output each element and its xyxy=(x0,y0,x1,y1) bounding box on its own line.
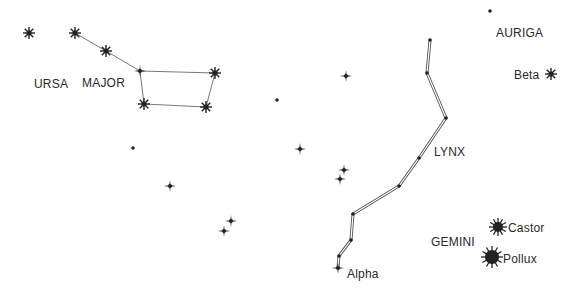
auriga-label: AURIGA xyxy=(496,27,543,39)
star-icon xyxy=(545,68,557,80)
dot-star-icon xyxy=(397,184,401,188)
dot-star-icon xyxy=(428,38,432,42)
alpha-label: Alpha xyxy=(347,268,379,280)
lynx-label: LYNX xyxy=(434,146,465,158)
star-icon xyxy=(340,70,352,82)
star-chart xyxy=(0,0,574,302)
bright-star-icon xyxy=(489,218,507,236)
dot-star-icon xyxy=(444,116,448,120)
major-label: MAJOR xyxy=(82,77,125,89)
star-icon xyxy=(23,27,35,39)
dot-star-icon xyxy=(425,71,429,75)
star-icon xyxy=(225,215,237,227)
stars xyxy=(23,9,557,274)
dot-star-icon xyxy=(351,212,355,216)
lynx-lines xyxy=(338,40,446,268)
star-icon xyxy=(134,65,146,77)
star-icon xyxy=(164,180,176,192)
star-icon xyxy=(69,27,81,39)
dot-star-icon xyxy=(417,156,421,160)
star-icon xyxy=(294,143,306,155)
pollux-label: Pollux xyxy=(503,253,537,265)
bright-star-icon xyxy=(481,246,503,268)
castor-label: Castor xyxy=(508,222,545,234)
dot-star-icon xyxy=(275,98,279,102)
beta-label: Beta xyxy=(514,69,540,81)
ursa-major-lines xyxy=(75,33,215,107)
star-icon xyxy=(200,101,212,113)
dot-star-icon xyxy=(131,146,135,150)
star-icon xyxy=(138,98,150,110)
ursa-label: URSA xyxy=(34,78,68,90)
dot-star-icon xyxy=(349,238,353,242)
star-icon xyxy=(218,225,230,237)
dot-star-icon xyxy=(488,9,492,13)
dot-star-icon xyxy=(337,254,341,258)
star-icon xyxy=(100,45,112,57)
gemini-label: GEMINI xyxy=(431,236,475,248)
star-icon xyxy=(209,67,221,79)
star-icon xyxy=(332,262,344,274)
